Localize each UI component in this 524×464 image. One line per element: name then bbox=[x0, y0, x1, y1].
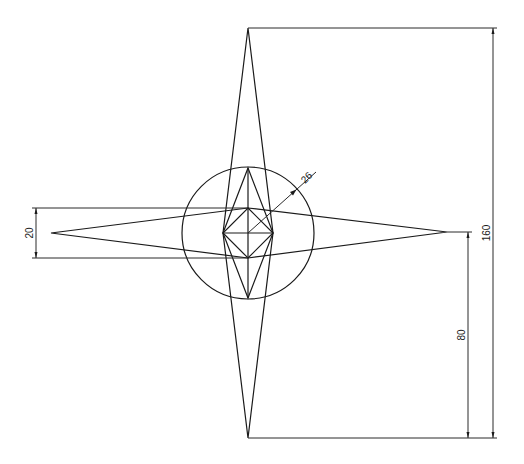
arrowhead-20-bottom bbox=[35, 252, 38, 258]
dimension-label-160: 160 bbox=[481, 224, 492, 241]
arrowhead-160-top bbox=[492, 28, 495, 34]
arrowhead-80-top bbox=[467, 232, 470, 238]
dimension-label-26: 26 bbox=[299, 169, 315, 185]
technical-drawing: 20 26 160 80 bbox=[0, 0, 524, 464]
arrowhead-20-top bbox=[35, 208, 38, 214]
arrowhead-160-bottom bbox=[492, 432, 495, 438]
dimension-label-20: 20 bbox=[24, 227, 35, 239]
arrowhead-80-bottom bbox=[467, 432, 470, 438]
dimension-label-80: 80 bbox=[456, 329, 467, 341]
